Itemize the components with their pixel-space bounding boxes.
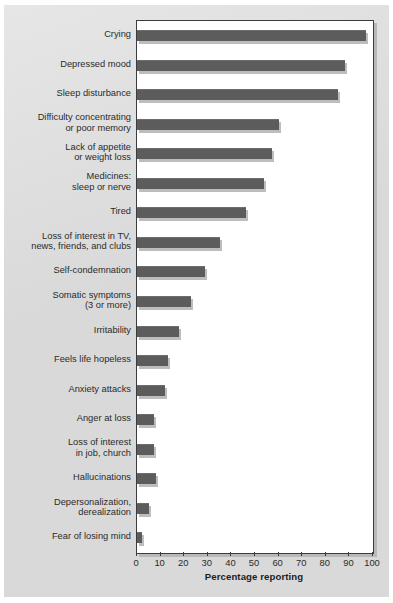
x-axis-tick (207, 552, 208, 556)
category-label: Anger at loss (0, 413, 131, 424)
x-axis-tick-label: 20 (178, 557, 188, 568)
bar (137, 414, 154, 425)
x-axis-tick (136, 552, 137, 556)
bar-row (137, 228, 373, 259)
bar-row (137, 523, 373, 554)
category-label: Depersonalization, derealization (0, 497, 131, 518)
bar (137, 237, 220, 248)
bar (137, 444, 154, 455)
x-axis-tick-label: 90 (343, 557, 353, 568)
bar (137, 148, 272, 159)
bar-row (137, 21, 373, 52)
category-label: Feels life hopeless (0, 354, 131, 365)
category-label: Hallucinations (0, 472, 131, 483)
x-axis-tick-label: 60 (272, 557, 282, 568)
plot-area (136, 20, 374, 554)
category-label: Loss of interest in job, church (0, 437, 131, 458)
x-axis-tick (183, 552, 184, 556)
x-axis-title: Percentage reporting (136, 571, 372, 582)
bar (137, 296, 191, 307)
bar (137, 503, 149, 514)
bar-row (137, 494, 373, 525)
bar-row (137, 80, 373, 111)
bar (137, 473, 156, 484)
category-label: Somatic symptoms (3 or more) (0, 290, 131, 311)
bar-row (137, 257, 373, 288)
figure: CryingDepressed moodSleep disturbanceDif… (0, 0, 393, 603)
x-axis-tick (160, 552, 161, 556)
x-axis-tick (301, 552, 302, 556)
bar-row (137, 405, 373, 436)
x-axis-tick-label: 70 (296, 557, 306, 568)
bar (137, 355, 168, 366)
x-axis-tick-label: 40 (225, 557, 235, 568)
bar-row (137, 346, 373, 377)
category-label: Loss of interest in TV, news, friends, a… (0, 231, 131, 252)
bar-row (137, 435, 373, 466)
x-axis-tick (325, 552, 326, 556)
category-label: Medicines: sleep or nerve (0, 171, 131, 192)
category-label: Difficulty concentrating or poor memory (0, 112, 131, 133)
x-axis-tick-label: 100 (364, 557, 380, 568)
bar (137, 532, 142, 543)
bar-row (137, 317, 373, 348)
bar-row (137, 464, 373, 495)
bar (137, 207, 246, 218)
bar (137, 326, 179, 337)
x-axis-tick-label: 30 (202, 557, 212, 568)
x-axis-tick-label: 0 (133, 557, 138, 568)
x-axis-tick (254, 552, 255, 556)
bar-row (137, 51, 373, 82)
category-label: Depressed mood (0, 59, 131, 70)
category-label: Crying (0, 29, 131, 40)
x-axis: Percentage reporting 0102030405060708090… (136, 552, 372, 592)
bar (137, 89, 338, 100)
category-label: Tired (0, 206, 131, 217)
category-label: Sleep disturbance (0, 88, 131, 99)
category-label: Fear of losing mind (0, 531, 131, 542)
x-axis-tick (348, 552, 349, 556)
x-axis-tick (230, 552, 231, 556)
bar-row (137, 169, 373, 200)
x-axis-tick-label: 10 (154, 557, 164, 568)
bar-row (137, 376, 373, 407)
x-axis-tick (372, 552, 373, 556)
bar (137, 266, 205, 277)
category-label: Lack of appetite or weight loss (0, 142, 131, 163)
bar-row (137, 139, 373, 170)
x-axis-tick (278, 552, 279, 556)
bar (137, 119, 279, 130)
bar (137, 178, 264, 189)
bars-container (137, 21, 373, 553)
bar (137, 30, 366, 41)
bar (137, 60, 345, 71)
category-label: Self-condemnation (0, 265, 131, 276)
bar (137, 385, 165, 396)
bar-chart: CryingDepressed moodSleep disturbanceDif… (0, 0, 393, 603)
bar-row (137, 198, 373, 229)
x-axis-tick-label: 50 (249, 557, 259, 568)
category-label: Anxiety attacks (0, 384, 131, 395)
bar-row (137, 287, 373, 318)
bar-row (137, 110, 373, 141)
x-axis-tick-label: 80 (320, 557, 330, 568)
category-axis-labels: CryingDepressed moodSleep disturbanceDif… (0, 20, 131, 552)
category-label: Irritability (0, 325, 131, 336)
